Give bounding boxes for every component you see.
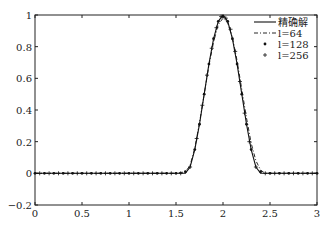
y-tick-label: 1 [26, 10, 32, 21]
plot-frame [35, 15, 317, 205]
x-tick-label: 1 [126, 208, 132, 219]
series-l=128 [34, 15, 319, 175]
series-l=256 [38, 15, 315, 176]
series-layer [34, 15, 319, 176]
y-tick-label: 0.6 [16, 73, 32, 84]
legend-item: 精确解 [254, 16, 308, 28]
x-tick-label: 1.5 [168, 208, 184, 219]
y-tick-label: 0 [26, 168, 32, 179]
series-l=64 [35, 18, 317, 173]
y-axis: −0.200.20.40.60.81 [8, 10, 317, 211]
legend-item: l=128 [264, 39, 309, 50]
x-tick-label: 3 [314, 208, 320, 219]
legend-label: l=128 [278, 39, 309, 50]
legend-label: 精确解 [278, 16, 308, 28]
x-tick-label: 2.5 [262, 208, 278, 219]
legend-label: l=256 [278, 50, 309, 61]
y-tick-label: 0.4 [16, 105, 32, 116]
legend: 精确解l=64l=128l=256 [254, 16, 309, 61]
line-chart: 00.511.522.53 −0.200.20.40.60.81 精确解l=64… [0, 0, 331, 228]
y-tick-label: 0.2 [16, 137, 32, 148]
x-tick-label: 0.5 [74, 208, 90, 219]
series-精确解 [35, 15, 317, 173]
axes-box [35, 15, 317, 205]
legend-label: l=64 [278, 28, 302, 39]
legend-item: l=256 [263, 50, 309, 61]
legend-item: l=64 [254, 28, 302, 39]
x-axis: 00.511.522.53 [32, 15, 320, 219]
x-tick-label: 2 [220, 208, 226, 219]
y-tick-label: −0.2 [8, 200, 32, 211]
y-tick-label: 0.8 [16, 42, 32, 53]
x-tick-label: 0 [32, 208, 38, 219]
